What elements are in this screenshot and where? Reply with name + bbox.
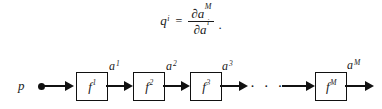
denominator-superscript: i	[207, 18, 209, 27]
equation-denominator: ∂ai	[191, 22, 213, 36]
arrow-ellipsis-to-block-m	[282, 81, 315, 92]
signal-a3-superscript: 3	[229, 59, 233, 68]
arrow-head-icon	[65, 81, 74, 91]
arrow-block-2-to-block-3	[163, 81, 190, 92]
arrow-head-icon	[124, 81, 133, 91]
block-f1-base: f	[88, 80, 92, 93]
signal-am-base: a	[347, 58, 353, 72]
arrow-shaft	[44, 85, 66, 87]
forward-chain-diagram: p f1 a1 f2 a2	[0, 55, 382, 109]
equation-lhs-superscript: i	[167, 15, 169, 23]
block-f3: f3	[190, 72, 222, 101]
arrow-head-icon	[365, 81, 374, 91]
block-f2-superscript: 2	[149, 79, 153, 87]
block-f2: f2	[133, 72, 165, 101]
signal-a2-superscript: 2	[173, 59, 177, 68]
block-f1-superscript: 1	[92, 79, 96, 87]
arrow-block-3-to-ellipsis	[220, 81, 248, 92]
figure-canvas: qi = ∂aM ∂ai . p f1	[0, 0, 382, 109]
arrow-shaft	[345, 85, 366, 87]
input-label-p: p	[18, 79, 25, 92]
equation-left-hand-side: qi	[160, 14, 169, 27]
arrow-head-icon	[306, 81, 315, 91]
chain-ellipsis: · · ·	[250, 79, 285, 94]
numerator-superscript: M	[205, 2, 212, 11]
numerator-base: a	[198, 6, 205, 21]
signal-label-a1: a1	[109, 60, 119, 72]
arrow-shaft	[163, 85, 182, 87]
arrow-shaft	[220, 85, 240, 87]
signal-am-superscript: M	[354, 58, 360, 67]
equation-fraction: ∂aM ∂ai	[188, 7, 214, 37]
equation-numerator: ∂aM	[188, 7, 214, 21]
arrow-input-to-block-1	[44, 81, 74, 92]
arrow-shaft	[282, 85, 307, 87]
signal-label-a3: a3	[222, 60, 232, 72]
equation-q-definition: qi = ∂aM ∂ai .	[0, 6, 382, 36]
arrow-head-icon	[239, 81, 248, 91]
signal-label-a2: a2	[166, 60, 176, 72]
arrow-shaft	[106, 85, 125, 87]
block-f2-base: f	[145, 80, 149, 93]
arrow-head-icon	[181, 81, 190, 91]
equation-period: .	[218, 18, 221, 31]
arrow-block-1-to-block-2	[106, 81, 133, 92]
block-fm-superscript: M	[330, 79, 336, 87]
block-f3-superscript: 3	[206, 79, 210, 87]
arrow-output-am	[345, 81, 374, 92]
signal-label-am: aM	[347, 59, 359, 71]
signal-a3-base: a	[222, 59, 228, 73]
denominator-base: a	[200, 23, 207, 38]
signal-a1-base: a	[109, 59, 115, 73]
signal-a2-base: a	[166, 59, 172, 73]
signal-a1-superscript: 1	[116, 59, 120, 68]
equation-equals-sign: =	[176, 15, 183, 27]
equation-lhs-base: q	[160, 14, 167, 27]
block-fm: fM	[315, 72, 347, 101]
block-f1: f1	[76, 72, 108, 101]
